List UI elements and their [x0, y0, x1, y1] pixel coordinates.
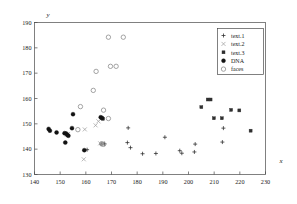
- data-point: [82, 148, 86, 152]
- x-axis-tick-labels: 140150160170180190200210220230: [30, 178, 270, 185]
- series-text-2: [65, 117, 105, 162]
- data-point: [220, 117, 223, 120]
- data-point: [238, 109, 241, 112]
- data-point: [108, 64, 112, 68]
- x-tick-label: 160: [81, 178, 90, 185]
- data-point: [101, 108, 105, 112]
- y-tick-label: 150: [22, 120, 31, 127]
- y-tick-label: 140: [22, 145, 31, 152]
- x-axis-ticks: [35, 172, 266, 175]
- x-tick-label: 170: [107, 178, 116, 185]
- legend-item-label: text.2: [231, 41, 245, 47]
- scatter-plot-figure: 140150160170180190200210220230 130140150…: [0, 0, 297, 204]
- series-faces: [76, 35, 126, 147]
- data-point: [114, 64, 118, 68]
- x-axis-label: x: [278, 157, 283, 165]
- legend: text.1text.2text.3DNAfaces: [218, 29, 264, 75]
- data-point: [55, 130, 59, 134]
- x-tick-label: 140: [30, 178, 39, 185]
- data-point: [78, 104, 82, 108]
- data-point: [94, 69, 98, 73]
- data-point: [48, 129, 52, 133]
- data-point: [212, 117, 215, 120]
- y-axis-ticks: [35, 23, 38, 175]
- data-point: [70, 126, 74, 130]
- y-axis-label: y: [45, 11, 50, 19]
- y-axis-tick-labels: 130140150160170180190: [22, 19, 31, 178]
- data-point: [200, 106, 203, 109]
- y-tick-label: 180: [22, 44, 31, 51]
- y-tick-label: 170: [22, 69, 31, 76]
- y-tick-label: 160: [22, 95, 31, 102]
- series-DNA: [47, 112, 104, 152]
- x-tick-label: 220: [235, 178, 244, 185]
- data-point: [91, 88, 95, 92]
- data-point: [249, 129, 252, 132]
- data-point: [71, 112, 75, 116]
- x-tick-label: 230: [261, 178, 270, 185]
- data-point: [66, 134, 70, 138]
- y-tick-label: 190: [22, 19, 31, 26]
- data-point: [206, 98, 209, 101]
- series-text-1: [85, 126, 225, 156]
- legend-item-label: faces: [231, 66, 244, 72]
- legend-item-label: text.3: [231, 50, 245, 56]
- legend-item-label: DNA: [231, 58, 245, 64]
- data-point: [121, 35, 125, 39]
- x-tick-label: 190: [158, 178, 167, 185]
- legend-item-label: text.1: [231, 33, 245, 39]
- x-tick-label: 200: [184, 178, 193, 185]
- data-point: [100, 116, 104, 120]
- data-point: [63, 141, 67, 145]
- data-point: [106, 35, 110, 39]
- x-tick-label: 180: [133, 178, 142, 185]
- dot-legend-icon: [222, 59, 226, 63]
- data-point: [230, 108, 233, 111]
- plot-canvas: 140150160170180190200210220230 130140150…: [0, 0, 297, 204]
- y-tick-label: 130: [22, 171, 31, 178]
- x-tick-label: 150: [56, 178, 65, 185]
- data-point: [209, 98, 212, 101]
- square-legend-icon: [222, 51, 225, 54]
- x-tick-label: 210: [210, 178, 219, 185]
- data-point: [106, 116, 110, 120]
- series-text-3: [102, 98, 253, 132]
- data-point: [76, 127, 80, 131]
